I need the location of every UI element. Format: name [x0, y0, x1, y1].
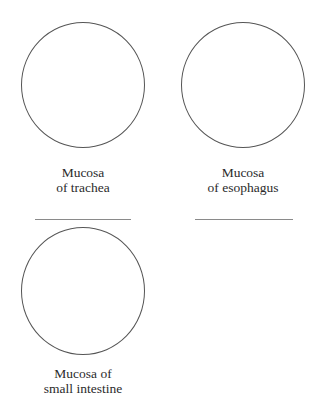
trachea-mucosa-circle [21, 22, 145, 148]
small-intestine-label-line2: small intestine [13, 381, 153, 396]
esophagus-mucosa-circle [181, 22, 305, 148]
esophagus-label-line2: of esophagus [173, 180, 313, 195]
small-intestine-label-line1: Mucosa of [13, 366, 153, 381]
trachea-label-line2: of trachea [13, 180, 153, 195]
small-intestine-label: Mucosa of small intestine [13, 366, 153, 396]
small-intestine-mucosa-circle [21, 227, 145, 355]
esophagus-answer-blank[interactable] [195, 219, 293, 220]
esophagus-label-line1: Mucosa [173, 165, 313, 180]
esophagus-label: Mucosa of esophagus [173, 165, 313, 195]
trachea-answer-blank[interactable] [35, 219, 131, 220]
trachea-label: Mucosa of trachea [13, 165, 153, 195]
trachea-label-line1: Mucosa [13, 165, 153, 180]
